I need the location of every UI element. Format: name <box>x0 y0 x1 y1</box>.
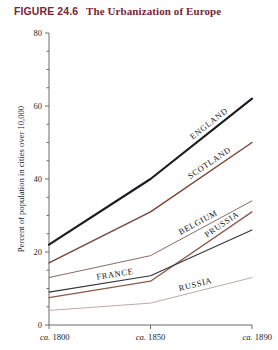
figure-title: The Urbanization of Europe <box>86 5 221 17</box>
figure-number: FIGURE 24.6 <box>14 5 78 17</box>
series-label-scotland: SCOTLAND <box>186 145 233 181</box>
series-line-france <box>49 230 252 292</box>
y-axis-title: Percent of population in cities over 10,… <box>16 106 26 252</box>
chart-series <box>49 99 252 311</box>
line-chart: ENGLANDENGLANDSCOTLANDSCOTLANDBELGIUMBEL… <box>0 22 278 350</box>
series-line-russia <box>49 278 252 311</box>
chart-plot-area: ENGLANDENGLANDSCOTLANDSCOTLANDBELGIUMBEL… <box>0 22 278 350</box>
figure-header: FIGURE 24.6 The Urbanization of Europe <box>0 4 278 22</box>
y-tick-label: 60 <box>34 101 43 111</box>
y-tick-label: 40 <box>34 174 43 184</box>
series-label-russia: RUSSIA <box>178 276 213 293</box>
y-tick-label: 0 <box>38 320 42 330</box>
series-line-scotland <box>49 143 252 263</box>
x-tick-label: ca. 1890 <box>242 332 272 342</box>
chart-tick-labels: 020406080ca. 1800ca. 1850ca. 1890Percent… <box>16 28 272 342</box>
x-tick-label: ca. 1800 <box>40 332 70 342</box>
series-label-england: ENGLAND <box>189 106 230 141</box>
figure-container: FIGURE 24.6 The Urbanization of Europe E… <box>0 0 278 350</box>
y-tick-label: 80 <box>34 28 43 38</box>
y-tick-label: 20 <box>34 247 43 257</box>
x-tick-label: ca. 1850 <box>136 332 166 342</box>
